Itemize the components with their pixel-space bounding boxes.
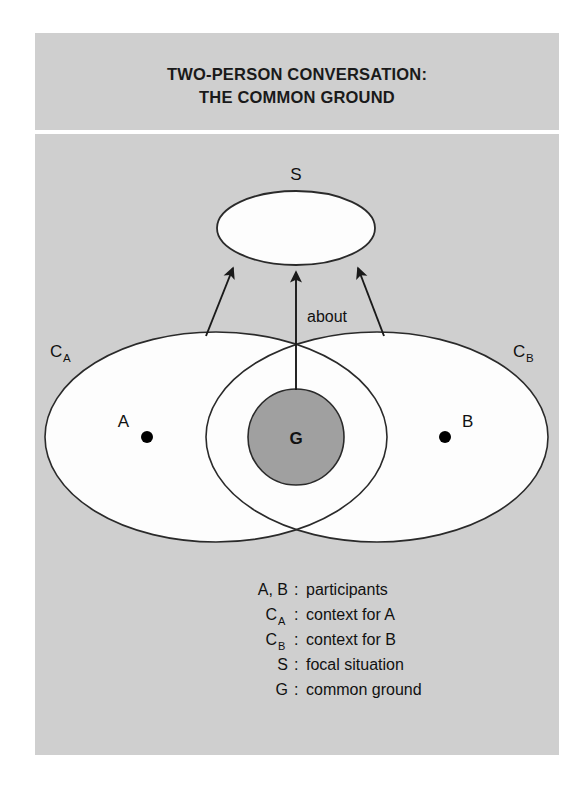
legend-item-2-text: context for B [306,631,396,648]
label-participant-a: A [118,412,130,431]
figure-root: TWO-PERSON CONVERSATION: THE COMMON GROU… [0,0,587,795]
label-context-a-main: C [50,342,62,361]
legend-item-1-text: context for A [306,606,395,623]
diagram-svg: TWO-PERSON CONVERSATION: THE COMMON GROU… [0,0,587,795]
label-common-ground: G [289,429,302,448]
label-context-a-sub: A [63,352,71,364]
point-participant-b [439,431,451,443]
legend-item-0-separator: : [294,581,298,598]
legend-item-4-text: common ground [306,681,422,698]
label-context-b-main: C [513,342,525,361]
legend-item-0: A, B : participants [258,581,388,598]
legend-item-4: G : common ground [276,681,422,698]
ellipse-focal-situation [217,191,375,265]
label-context-b-sub: B [526,352,534,364]
label-participant-b: B [462,412,473,431]
legend-item-3: S : focal situation [277,656,404,673]
legend-item-0-text: participants [306,581,388,598]
legend-item-2-sub: B [278,640,285,652]
legend-item-3-separator: : [294,656,298,673]
legend-item-1-separator: : [294,606,298,623]
legend-item-1-symbol: C [265,606,277,623]
title-line-2: THE COMMON GROUND [199,88,395,106]
title-divider [35,130,559,134]
legend-item-2-separator: : [294,631,298,648]
point-participant-a [141,431,153,443]
legend-item-2-symbol: C [265,631,277,648]
legend-item-0-symbol: A, B [258,581,288,598]
legend-item-4-separator: : [294,681,298,698]
label-focal-situation: S [290,165,301,184]
legend-item-1-sub: A [278,615,286,627]
legend-item-3-symbol: S [277,656,288,673]
edge-label-about: about [307,308,348,325]
legend-item-4-symbol: G [276,681,288,698]
title-line-1: TWO-PERSON CONVERSATION: [167,65,427,83]
legend-item-3-text: focal situation [306,656,404,673]
